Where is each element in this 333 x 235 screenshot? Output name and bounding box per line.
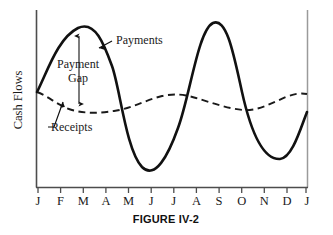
payment-gap-label-line2: Gap — [68, 71, 88, 85]
x-tick-label-9: O — [237, 194, 246, 208]
x-tick-label-8: S — [216, 194, 223, 208]
x-tick-label-10: N — [260, 194, 269, 208]
receipts-series-label: Receipts — [51, 120, 93, 134]
payments-series-label: Payments — [116, 33, 163, 47]
x-tick-label-1: F — [57, 194, 64, 208]
x-tick-label-7: A — [192, 194, 201, 208]
x-tick-label-6: J — [171, 194, 176, 208]
x-tick-label-4: M — [123, 194, 134, 208]
figure-container: J F M A M J J A S O N D J Cash Flows Pay… — [0, 0, 333, 235]
x-tick-label-5: J — [149, 194, 154, 208]
payment-gap-label-line1: Payment — [57, 57, 100, 71]
x-tick-label-12: J — [305, 194, 310, 208]
cash-flow-chart: J F M A M J J A S O N D J Cash Flows Pay… — [0, 0, 333, 235]
x-tick-label-11: D — [282, 194, 291, 208]
y-axis-title: Cash Flows — [11, 71, 25, 130]
figure-caption: FIGURE IV-2 — [133, 213, 199, 225]
x-tick-label-0: J — [36, 194, 41, 208]
x-tick-label-2: M — [78, 194, 89, 208]
x-tick-label-3: A — [101, 194, 110, 208]
